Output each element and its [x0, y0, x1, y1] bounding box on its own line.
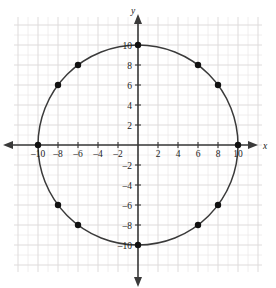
x-tick-label: 6 [196, 149, 201, 159]
x-tick-label: 2 [156, 149, 161, 159]
data-point [135, 42, 141, 48]
graph-figure: –10–8–6–4–2246810108642–2–4–6–8–10 x y [0, 0, 276, 288]
y-tick-label: –4 [122, 181, 133, 191]
x-tick-label: –4 [92, 149, 103, 159]
x-tick-label: –6 [72, 149, 83, 159]
x-tick-label: 4 [176, 149, 181, 159]
y-tick-label: –8 [122, 221, 133, 231]
x-axis-label: x [262, 141, 268, 151]
x-tick-label: –10 [30, 149, 46, 159]
data-point [235, 142, 241, 148]
y-tick-label: –2 [122, 161, 133, 171]
y-tick-label: 10 [123, 41, 133, 51]
y-axis-label: y [130, 6, 136, 16]
x-axis-arrow-left [3, 141, 13, 149]
y-tick-label: –6 [122, 201, 133, 211]
data-point [55, 82, 61, 88]
data-point [75, 62, 81, 68]
data-point [215, 202, 221, 208]
data-point [195, 62, 201, 68]
data-point [195, 222, 201, 228]
y-tick-label: 6 [127, 81, 132, 91]
y-axis-arrow-down [134, 277, 142, 287]
x-tick-label: 10 [233, 149, 243, 159]
y-tick-label: 8 [127, 61, 132, 71]
data-point [35, 142, 41, 148]
y-tick-label: 2 [127, 121, 132, 131]
y-tick-label: –10 [117, 241, 133, 251]
y-tick-label: 4 [127, 101, 132, 111]
data-point [215, 82, 221, 88]
data-point [135, 242, 141, 248]
x-tick-label: –2 [112, 149, 123, 159]
y-axis-arrow-up [134, 14, 142, 24]
data-point [75, 222, 81, 228]
x-tick-label: –8 [52, 149, 63, 159]
data-point [55, 202, 61, 208]
coordinate-plane-svg: –10–8–6–4–2246810108642–2–4–6–8–10 x y [0, 0, 276, 288]
x-axis-arrow-right [248, 141, 258, 149]
x-tick-label: 8 [216, 149, 221, 159]
